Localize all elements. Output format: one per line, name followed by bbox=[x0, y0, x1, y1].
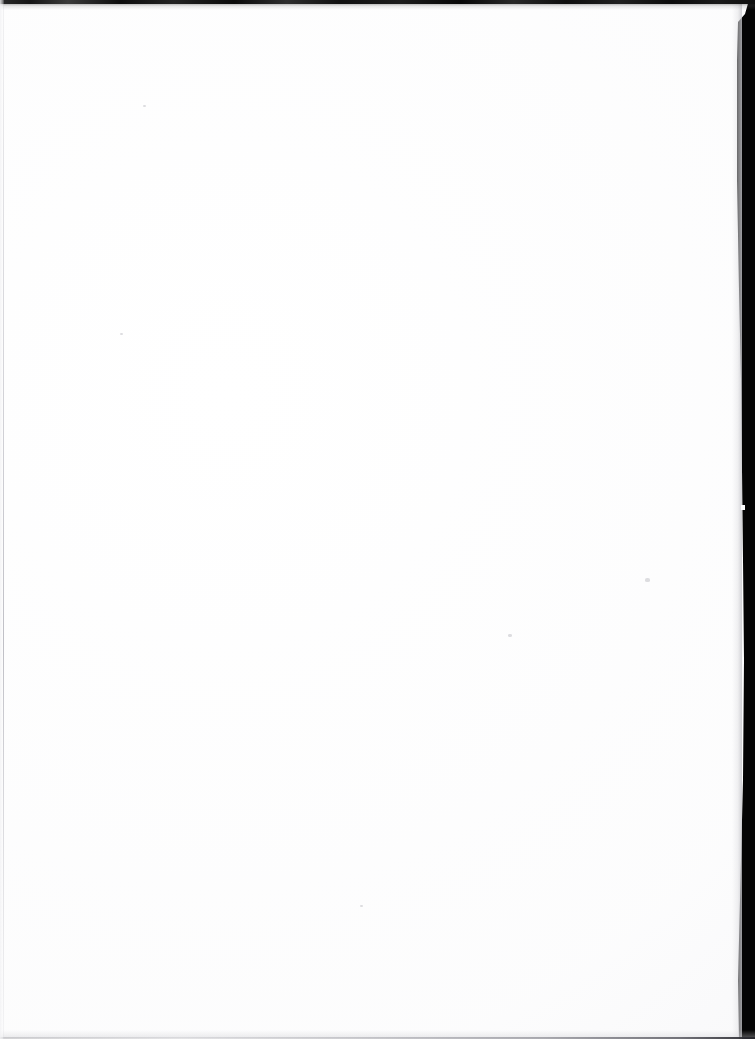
top-scan-edge-falloff bbox=[0, 3, 755, 10]
scanned-page bbox=[0, 0, 755, 1039]
paper-tone-vignette bbox=[0, 0, 755, 1039]
right-scan-edge-nick bbox=[741, 505, 745, 510]
paper-sheet bbox=[0, 0, 755, 1039]
left-scan-edge-line bbox=[3, 0, 4, 1039]
top-scan-edge-shadow bbox=[0, 0, 755, 4]
